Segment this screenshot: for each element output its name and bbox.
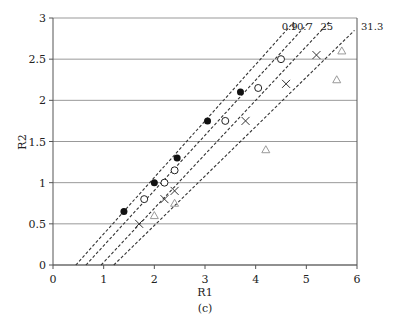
x-axis-label: R1	[197, 286, 212, 299]
dashed-line	[86, 22, 309, 265]
y-tick-label: 1.5	[29, 136, 47, 149]
y-tick-label: 2	[39, 94, 46, 107]
y-tick-label: 0	[39, 259, 46, 272]
open-circle-marker	[255, 84, 262, 91]
y-axis-label: R2	[16, 134, 29, 149]
x-tick-label: 3	[202, 273, 209, 286]
filled-circle-marker	[174, 154, 181, 161]
triangle-marker	[262, 146, 270, 153]
line-label: 10.7	[291, 21, 313, 32]
open-circle-marker	[161, 179, 168, 186]
cross-marker	[171, 187, 179, 195]
filled-circle-marker	[237, 89, 244, 96]
y-tick-label: 1	[39, 177, 46, 190]
x-tick-label: 2	[151, 273, 158, 286]
triangle-marker	[338, 47, 346, 54]
open-circle-marker	[171, 167, 178, 174]
dashed-line	[101, 22, 329, 265]
cross-marker	[282, 80, 290, 88]
line-label: 25	[320, 21, 333, 32]
y-tick-label: 0.5	[29, 218, 47, 231]
triangle-marker	[150, 212, 158, 219]
filled-circle-marker	[120, 208, 127, 215]
data-points	[120, 47, 345, 228]
y-tick-label: 2.5	[29, 53, 47, 66]
open-circle-marker	[278, 56, 285, 63]
scatter-chart: 00.511.522.530123456 0.910.72531.3 R1 (c…	[0, 0, 398, 328]
y-tick-label: 3	[39, 12, 46, 25]
dashed-line	[76, 22, 294, 265]
open-circle-marker	[141, 196, 148, 203]
gridlines	[53, 18, 357, 265]
x-tick-label: 6	[354, 273, 361, 286]
dashed-lines: 0.910.72531.3	[76, 21, 383, 265]
caption: (c)	[198, 302, 213, 315]
filled-circle-marker	[151, 179, 158, 186]
open-circle-marker	[222, 117, 229, 124]
x-tick-label: 1	[100, 273, 107, 286]
dashed-line	[114, 30, 355, 265]
triangle-marker	[333, 76, 341, 83]
x-tick-label: 0	[50, 273, 57, 286]
line-label: 31.3	[361, 21, 383, 32]
cross-marker	[242, 117, 250, 125]
axes: 00.511.522.530123456	[29, 12, 361, 286]
x-tick-label: 4	[252, 273, 259, 286]
x-tick-label: 5	[303, 273, 310, 286]
filled-circle-marker	[204, 117, 211, 124]
cross-marker	[160, 195, 168, 203]
cross-marker	[312, 51, 320, 59]
